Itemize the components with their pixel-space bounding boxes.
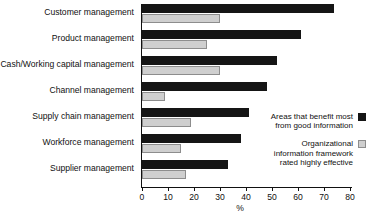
category-label: Customer management	[0, 8, 134, 17]
legend-label: Organizationalinformation frameworkrated…	[236, 139, 366, 167]
x-tick	[168, 187, 169, 191]
bar-group	[142, 4, 352, 30]
x-tick	[194, 187, 195, 191]
category-label: Supply chain management	[0, 112, 134, 121]
bar-framework	[142, 118, 191, 127]
legend-swatch-light	[358, 140, 366, 148]
bar-framework	[142, 66, 220, 75]
x-tick-label: 40	[241, 192, 251, 202]
bar-framework	[142, 144, 181, 153]
bar-group	[142, 56, 352, 82]
x-tick-label: 50	[267, 192, 277, 202]
x-tick-label: 30	[215, 192, 225, 202]
x-tick	[272, 187, 273, 191]
x-tick	[324, 187, 325, 191]
x-tick-label: 0	[140, 192, 145, 202]
bar-benefit	[142, 134, 241, 143]
bar-framework	[142, 14, 220, 23]
category-label: Channel management	[0, 86, 134, 95]
legend-label: Areas that benefit mostfrom good informa…	[236, 112, 366, 130]
bar-framework	[142, 40, 207, 49]
bar-group	[142, 82, 352, 108]
bar-benefit	[142, 56, 277, 65]
bar-benefit	[142, 160, 228, 169]
bar-framework	[142, 170, 186, 179]
x-tick-label: 80	[345, 192, 355, 202]
category-label: Workforce management	[0, 138, 134, 147]
legend-swatch-dark	[358, 113, 366, 121]
x-tick-label: 70	[319, 192, 329, 202]
category-label: Supplier management	[0, 164, 134, 173]
x-tick-label: 10	[163, 192, 173, 202]
category-axis-labels: Customer managementProduct managementCas…	[0, 0, 138, 186]
bar-benefit	[142, 4, 334, 13]
bar-benefit	[142, 108, 249, 117]
x-tick	[350, 187, 351, 191]
bar-benefit	[142, 82, 267, 91]
bar-benefit	[142, 30, 301, 39]
category-label: Cash/Working capital management	[0, 60, 134, 69]
category-label: Product management	[0, 34, 134, 43]
bar-group	[142, 30, 352, 56]
x-axis-title: %	[236, 203, 244, 213]
x-tick	[142, 187, 143, 191]
legend-item: Areas that benefit mostfrom good informa…	[236, 112, 366, 130]
x-tick	[246, 187, 247, 191]
x-tick-label: 60	[293, 192, 303, 202]
legend-item: Organizationalinformation frameworkrated…	[236, 139, 366, 167]
x-tick	[298, 187, 299, 191]
horizontal-bar-chart: Customer managementProduct managementCas…	[0, 0, 366, 216]
bar-framework	[142, 92, 165, 101]
x-tick-label: 20	[189, 192, 199, 202]
x-tick	[220, 187, 221, 191]
chart-legend: Areas that benefit mostfrom good informa…	[236, 112, 366, 176]
